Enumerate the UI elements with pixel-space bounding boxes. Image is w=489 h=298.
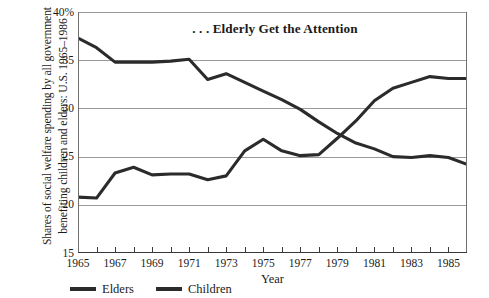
plot-area (78, 12, 467, 253)
x-axis-tick-label: 1981 (354, 258, 394, 269)
y-axis-title-container: Shares of social welfare spending by all… (0, 0, 56, 258)
chart-canvas (78, 12, 467, 253)
x-axis-tick-label: 1973 (206, 258, 246, 269)
chart-title: . . . Elderly Get the Attention (150, 21, 400, 37)
x-axis-tick-label: 1983 (391, 258, 431, 269)
x-axis-tick-label: 1985 (428, 258, 468, 269)
x-axis-tick-label: 1977 (280, 258, 320, 269)
x-axis-tick-label: 1971 (169, 258, 209, 269)
y-axis-tick-label: 25 (0, 151, 80, 162)
legend-label-children: Children (188, 283, 232, 296)
legend-item-elders[interactable]: Elders (70, 283, 134, 296)
data-series-lines (78, 38, 467, 198)
legend-label-elders: Elders (102, 283, 134, 296)
legend-swatch-children (156, 287, 182, 290)
legend-item-children[interactable]: Children (156, 283, 232, 296)
x-axis-tick-label: 1967 (95, 258, 135, 269)
chart-legend: Elders Children (70, 280, 270, 298)
chart-figure: Shares of social welfare spending by all… (0, 0, 489, 298)
x-axis-tick-label: 1979 (317, 258, 357, 269)
y-axis-tick-label: 40% (0, 7, 80, 18)
legend-swatch-elders (70, 287, 96, 290)
y-axis-title: Shares of social welfare spending by all… (40, 2, 71, 250)
gridlines (78, 13, 467, 206)
x-axis-tick-label: 1969 (132, 258, 172, 269)
y-axis-tick-label: 35 (0, 55, 80, 66)
y-axis-tick-label: 20 (0, 199, 80, 210)
y-axis-tick-label: 30 (0, 103, 80, 114)
x-axis-tick-label: 1965 (58, 258, 98, 269)
x-axis-tick-label: 1975 (243, 258, 283, 269)
